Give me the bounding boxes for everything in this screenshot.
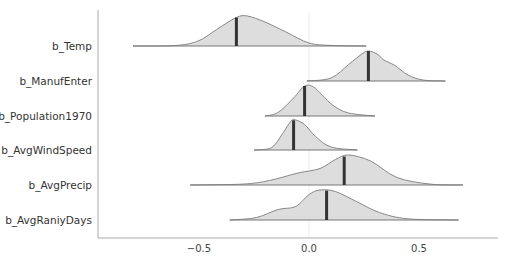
density-area (254, 119, 357, 150)
y-axis-label: b_AvgWindSpeed (1, 144, 92, 157)
y-axis-label: b_Population1970 (0, 110, 92, 123)
x-tick-label: 0.0 (301, 243, 317, 254)
y-axis-label: b_AvgPrecip (29, 179, 93, 192)
ridge-b-manufenter (307, 51, 446, 81)
ridge-b-avgprecip (190, 155, 463, 185)
ridge-b-temp (133, 16, 366, 46)
density-area (307, 51, 446, 81)
y-axis-label: b_ManufEnter (19, 75, 92, 88)
density-area (133, 16, 366, 46)
ridge-b-avgwindspeed (254, 119, 357, 150)
ridge-b-avgraniydays (230, 190, 459, 220)
ridges-group (133, 16, 463, 220)
density-area (265, 85, 375, 116)
y-axis-label: b_AvgRaniyDays (5, 214, 92, 227)
density-area (190, 155, 463, 185)
y-axis-label: b_Temp (52, 40, 92, 53)
y-axis-labels: b_Tempb_ManufEnterb_Population1970b_AvgW… (0, 40, 93, 227)
x-axis-tick-labels: −0.50.00.5 (187, 243, 427, 254)
ridgeline-chart: b_Tempb_ManufEnterb_Population1970b_AvgW… (0, 0, 508, 264)
x-tick-label: −0.5 (187, 243, 211, 254)
x-tick-label: 0.5 (411, 243, 427, 254)
ridge-b-population1970 (265, 85, 375, 116)
